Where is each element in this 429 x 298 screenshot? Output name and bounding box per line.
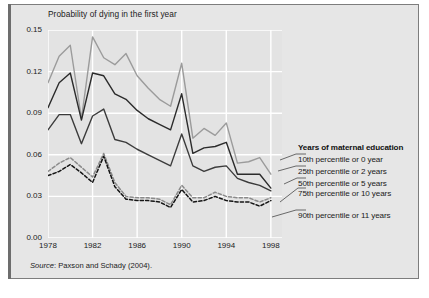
- legend-item-1: 25th percentile or 2 years: [298, 167, 387, 176]
- x-tick-label: 1994: [206, 241, 246, 250]
- legend: Years of maternal education 10th percent…: [298, 143, 424, 152]
- series-line-1: [48, 73, 271, 188]
- y-tick-label: 0.06: [8, 150, 42, 159]
- figure-container: Probability of dying in the first year 0…: [0, 0, 429, 298]
- source-label: Source: [30, 261, 54, 270]
- x-tick-label: 1978: [28, 241, 68, 250]
- y-tick-label: 0.12: [8, 67, 42, 76]
- source-note: Source: Paxson and Schady (2004).: [30, 261, 152, 270]
- y-tick-label: 0.15: [8, 25, 42, 34]
- series-line-0: [48, 37, 271, 174]
- legend-title: Years of maternal education: [298, 143, 424, 152]
- series-line-2: [48, 109, 271, 191]
- y-tick-label: 0.09: [8, 108, 42, 117]
- source-text: : Paxson and Schady (2004).: [54, 261, 152, 270]
- x-tick-label: 1982: [73, 241, 113, 250]
- x-tick-label: 1990: [162, 241, 202, 250]
- plot-area: [48, 30, 282, 238]
- y-tick-label: 0.03: [8, 191, 42, 200]
- legend-item-0: 10th percentile or 0 year: [298, 155, 383, 164]
- legend-item-4: 90th percentile or 11 years: [298, 211, 391, 220]
- chart-title: Probability of dying in the first year: [48, 9, 177, 19]
- x-tick-label: 1986: [117, 241, 157, 250]
- x-tick-label: 1998: [251, 241, 291, 250]
- legend-item-2: 50th percentile or 5 years: [298, 179, 387, 188]
- legend-item-3: 75th percentile or 10 years: [298, 189, 391, 198]
- chart-svg: [48, 30, 282, 238]
